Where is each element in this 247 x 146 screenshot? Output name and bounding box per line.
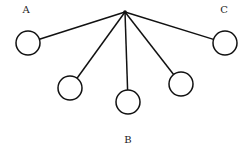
string-bob-2 <box>77 12 125 78</box>
string-bob-c <box>125 12 214 39</box>
bob-2-circle <box>58 76 82 100</box>
pendulum-diagram: A C B <box>0 0 247 146</box>
pivot-point <box>123 10 127 14</box>
label-c: C <box>220 4 228 15</box>
string-bob-4 <box>125 12 174 75</box>
label-a: A <box>21 4 30 15</box>
label-b: B <box>124 134 131 145</box>
bob-b-circle <box>116 90 140 114</box>
bob-4-circle <box>169 72 193 96</box>
string-bob-b <box>125 12 128 90</box>
bob-a-circle <box>16 31 40 55</box>
string-bob-a <box>39 12 125 39</box>
bob-c-circle <box>213 31 237 55</box>
